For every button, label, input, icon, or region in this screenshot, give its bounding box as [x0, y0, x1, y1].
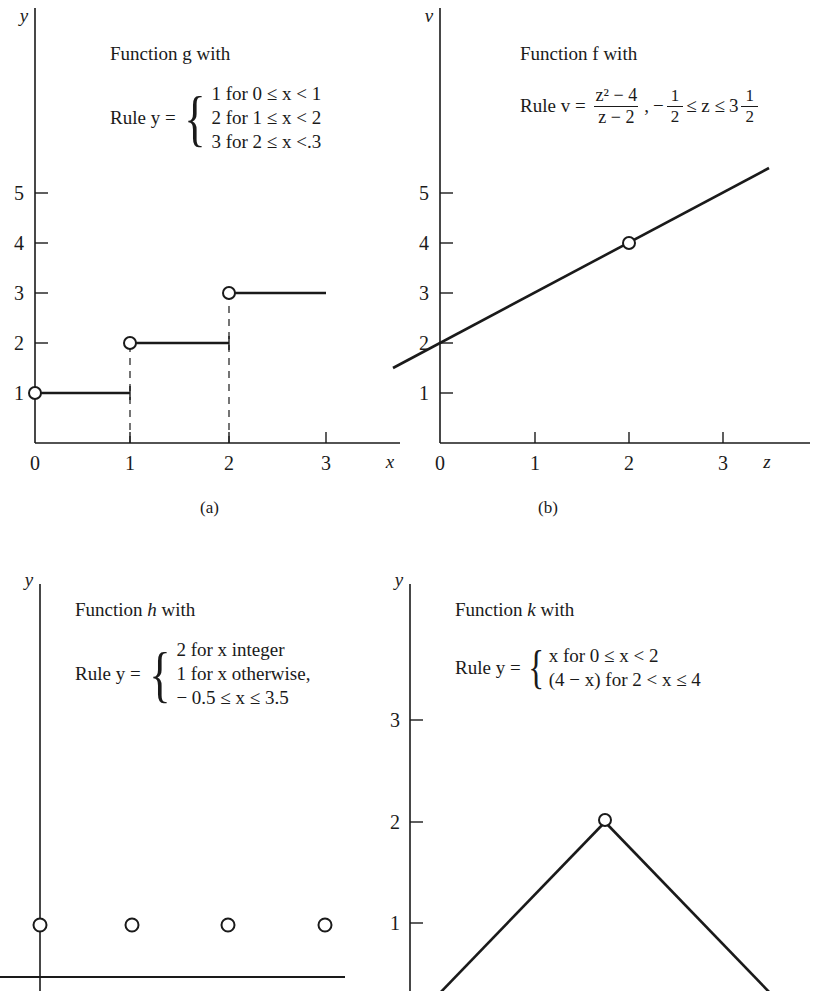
legend-title-prefix-c: Function [75, 599, 143, 620]
rule-case-1-a: 1 for 0 ≤ x < 1 [211, 82, 321, 106]
line-series-b [393, 168, 769, 368]
open-point-1-2-a [124, 337, 136, 349]
y-ticklabel-2-a: 2 [14, 332, 24, 354]
domain-upper-denominator-b: 2 [741, 106, 758, 126]
legend-title-prefix-d: Function [455, 599, 523, 620]
legend-title-symbol-c: h [147, 599, 157, 620]
rule-lead-c: Rule y = [75, 662, 144, 686]
rule-case-2-d: (4 − x) for 2 < x ≤ 4 [549, 668, 701, 692]
legend-title-symbol-d: k [527, 599, 535, 620]
legend-title-prefix-a: Function [110, 43, 178, 64]
legend-title-suffix-c: with [162, 599, 196, 620]
caption-b: (b) [538, 498, 558, 518]
y-ticklabel-1-a: 1 [14, 382, 24, 404]
legend-rule-a: Rule y = { 1 for 0 ≤ x < 1 2 for 1 ≤ x <… [110, 82, 321, 155]
y-ticklabel-4-b: 4 [419, 232, 429, 254]
rule-case-3-c: − 0.5 ≤ x ≤ 3.5 [176, 686, 310, 710]
x-ticklabel-1-a: 1 [125, 452, 135, 474]
rule-lead-b: Rule v = [520, 94, 589, 118]
legend-rule-c: Rule y = { 2 for x integer 1 for x other… [75, 638, 310, 711]
legend-rule-d: Rule y = { x for 0 ≤ x < 2 (4 − x) for 2… [455, 644, 701, 693]
legend-title-symbol-b: f [592, 43, 598, 64]
domain-upper-fraction-b: 1 2 [741, 87, 758, 126]
x-ticklabel-0-b: 0 [435, 452, 445, 474]
y-ticklabel-5-b: 5 [419, 182, 429, 204]
x-ticklabel-2-b: 2 [624, 452, 634, 474]
y-ticklabel-4-a: 4 [14, 232, 24, 254]
x-ticklabel-1-b: 1 [530, 452, 540, 474]
legend-d: Function k with Rule y = { x for 0 ≤ x <… [455, 598, 701, 692]
legend-title-b: Function f with [520, 42, 761, 66]
x-axis-label-a: x [385, 451, 395, 472]
y-ticklabel-5-a: 5 [14, 182, 24, 204]
x-ticklabel-3-b: 3 [718, 452, 728, 474]
x-ticklabel-2-a: 2 [224, 452, 234, 474]
domain-half-fraction-b: 1 2 [667, 87, 684, 126]
legend-b: Function f with Rule v = z² − 4 z − 2 , … [520, 42, 761, 127]
domain-half-denominator-b: 2 [667, 106, 684, 126]
legend-c: Function h with Rule y = { 2 for x integ… [75, 598, 310, 711]
line-series-falling-d [605, 822, 800, 991]
open-point-2-4-b [623, 237, 635, 249]
x-axis-label-b: z [762, 451, 771, 472]
rule-case-2-a: 2 for 1 ≤ x < 2 [211, 106, 321, 130]
y-ticklabel-3-b: 3 [419, 282, 429, 304]
legend-title-prefix-b: Function [520, 43, 588, 64]
rule-cases-c: 2 for x integer 1 for x otherwise, − 0.5… [176, 638, 310, 711]
y-axis-label-d: y [393, 569, 404, 590]
open-point-0-1-a [29, 387, 41, 399]
y-ticklabel-2-d: 2 [390, 811, 400, 833]
legend-title-a: Function g with [110, 42, 321, 66]
legend-title-suffix-d: with [541, 599, 575, 620]
legend-title-c: Function h with [75, 598, 310, 622]
rule-case-1-c: 2 for x integer [176, 638, 310, 662]
legend-title-suffix-b: with [603, 43, 637, 64]
figure-sheet: 1 2 3 4 5 0 1 2 3 y x [0, 0, 836, 991]
domain-whole-b: 3 [725, 94, 739, 118]
x-ticklabel-0-a: 0 [30, 452, 40, 474]
legend-title-d: Function k with [455, 598, 701, 622]
domain-upper-numerator-b: 1 [741, 87, 758, 106]
legend-title-symbol-a: g [182, 43, 192, 64]
domain-minus-b: − [649, 94, 664, 118]
legend-title-suffix-a: with [197, 43, 231, 64]
open-point-1-c [126, 919, 139, 932]
x-ticklabel-3-a: 3 [321, 452, 331, 474]
y-axis-label-c: y [23, 569, 34, 590]
rule-fraction-b: z² − 4 z − 2 [592, 86, 642, 127]
y-ticklabel-3-a: 3 [14, 282, 24, 304]
legend-rule-b: Rule v = z² − 4 z − 2 , − 1 2 ≤ z ≤ 3 1 … [520, 86, 761, 127]
domain-half-numerator-b: 1 [667, 87, 684, 106]
y-axis-label-b: v [425, 5, 434, 26]
caption-a: (a) [200, 498, 219, 518]
rule-lead-d: Rule y = [455, 656, 524, 680]
open-point-apex-d [599, 814, 611, 826]
open-point-2-3-a [223, 287, 235, 299]
domain-relation-b: ≤ z ≤ [686, 94, 725, 118]
brace-icon-d: { [527, 649, 545, 687]
rule-cases-a: 1 for 0 ≤ x < 1 2 for 1 ≤ x < 2 3 for 2 … [211, 82, 321, 155]
open-point-3-c [319, 919, 332, 932]
open-point-2-c [222, 919, 235, 932]
brace-icon-a: { [183, 93, 207, 144]
rule-cases-d: x for 0 ≤ x < 2 (4 − x) for 2 < x ≤ 4 [549, 644, 701, 693]
rule-case-1-d: x for 0 ≤ x < 2 [549, 644, 701, 668]
line-series-rising-d [410, 822, 605, 991]
open-point-0-c [34, 919, 47, 932]
brace-icon-c: { [148, 649, 172, 700]
legend-a: Function g with Rule y = { 1 for 0 ≤ x <… [110, 42, 321, 155]
rule-lead-a: Rule y = [110, 106, 179, 130]
y-ticklabel-1-b: 1 [419, 382, 429, 404]
y-ticklabel-3-d: 3 [390, 709, 400, 731]
rule-case-3-a: 3 for 2 ≤ x <.3 [211, 130, 321, 154]
rule-case-2-c: 1 for x otherwise, [176, 662, 310, 686]
fraction-numerator-b: z² − 4 [592, 86, 642, 106]
fraction-denominator-b: z − 2 [594, 106, 638, 127]
y-axis-label-a: y [18, 5, 29, 26]
y-ticklabel-1-d: 1 [390, 912, 400, 934]
rule-domain-b: , − 1 2 ≤ z ≤ 3 1 2 [644, 87, 761, 126]
